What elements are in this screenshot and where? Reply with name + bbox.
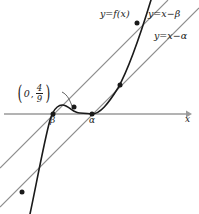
point-zero-four-ninths	[72, 105, 77, 110]
annotation-point-coordinate: ( 0 , 4 9 )	[16, 84, 52, 103]
annotation-denominator: 9	[37, 94, 42, 103]
label-root-beta: β	[50, 116, 55, 125]
math-figure: y=f(x) y=x−β y=x−α β α x ( 0 , 4 9 )	[0, 0, 199, 214]
point-curve-line-upper-intersection	[135, 21, 140, 26]
annotation-close-paren: )	[45, 85, 50, 102]
label-function-curve: y=f(x)	[100, 9, 130, 19]
annotation-separator: ,	[31, 88, 34, 99]
label-root-alpha: α	[89, 116, 95, 125]
point-curve-lower-left-intersection	[20, 190, 25, 195]
annotation-fraction: 4 9	[36, 84, 43, 103]
annotation-open-paren: (	[17, 85, 22, 102]
annotation-numerator: 4	[37, 84, 42, 93]
curve-y-equals-f-of-x	[30, 0, 151, 214]
annotation-x-value: 0	[24, 88, 30, 99]
label-x-axis: x	[185, 115, 190, 124]
label-line-upper: y=x−β	[148, 9, 180, 19]
point-curve-line-lower-intersection	[118, 83, 123, 88]
label-line-lower: y=x−α	[154, 31, 187, 41]
